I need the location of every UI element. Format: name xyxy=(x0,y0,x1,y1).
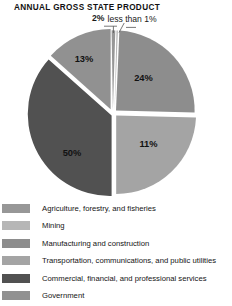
slice-label-24: 24% xyxy=(134,73,153,83)
legend-label-manufacturing: Manufacturing and construction xyxy=(42,236,149,251)
slice-label-13: 13% xyxy=(75,54,94,64)
legend-label-agriculture: Agriculture, forestry, and fisheries xyxy=(42,201,156,216)
legend-swatch-mining xyxy=(2,221,30,230)
legend-swatch-manufacturing xyxy=(2,239,30,248)
legend-item-agriculture[interactable]: Agriculture, forestry, and fisheries xyxy=(0,201,232,218)
legend-item-transportation[interactable]: Transportation, communications, and publ… xyxy=(0,253,232,270)
legend-item-commercial[interactable]: Commercial, financial, and professional … xyxy=(0,271,232,288)
pie-chart: 24% 11% 50% 13% 2% less than 1% xyxy=(0,0,232,200)
legend-item-government[interactable]: Government xyxy=(0,288,232,305)
slice-label-50: 50% xyxy=(63,148,82,158)
legend-swatch-commercial xyxy=(2,274,30,283)
legend-swatch-government xyxy=(2,291,30,300)
legend: Agriculture, forestry, and fisheries Min… xyxy=(0,201,232,305)
slice-label-11: 11% xyxy=(139,139,158,149)
pie-slice-manufacturing[interactable] xyxy=(116,31,195,113)
callout-label-2pct: 2% xyxy=(92,13,105,23)
legend-label-commercial: Commercial, financial, and professional … xyxy=(42,271,207,286)
callout-label-less-than-1pct: less than 1% xyxy=(108,14,158,24)
legend-swatch-transportation xyxy=(2,256,30,265)
legend-swatch-agriculture xyxy=(2,204,30,213)
pie-slice-transportation[interactable] xyxy=(116,115,196,194)
legend-item-mining[interactable]: Mining xyxy=(0,218,232,235)
pie-chart-svg: 24% 11% 50% 13% 2% less than 1% xyxy=(0,0,232,200)
legend-label-transportation: Transportation, communications, and publ… xyxy=(42,253,216,268)
legend-label-government: Government xyxy=(42,288,84,303)
pie-slice-agriculture[interactable] xyxy=(112,30,116,110)
legend-label-mining: Mining xyxy=(42,218,65,233)
legend-item-manufacturing[interactable]: Manufacturing and construction xyxy=(0,236,232,253)
